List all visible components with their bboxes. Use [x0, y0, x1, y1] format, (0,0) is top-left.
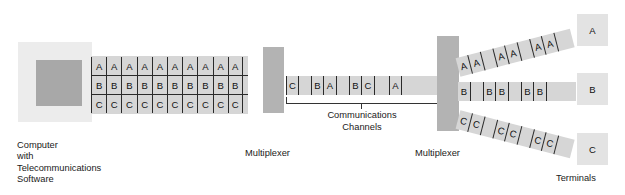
host-cell-b: B — [152, 76, 167, 94]
terminal-c: C — [577, 133, 608, 165]
host-cell-c: C — [121, 95, 136, 113]
communications-channel-gap — [375, 76, 389, 95]
host-data-cable: AAAAAAAAAA BBBBBBBBBB CCCCCCCCCC — [91, 56, 248, 114]
output-channel-b-cell: B — [496, 82, 509, 101]
output-channel-b-gap — [547, 82, 576, 101]
host-cell-b: B — [91, 76, 106, 94]
computer-icon-screen — [36, 60, 82, 106]
output-channel-b-gap — [471, 82, 483, 101]
output-channel-a: AAAAAA — [456, 29, 575, 77]
terminal-a: A — [577, 14, 608, 46]
output-channel-b-cell: B — [521, 82, 534, 101]
output-channel-c: CCCCCC — [456, 110, 575, 158]
communications-channel-bracket — [286, 97, 438, 104]
host-cell-a: A — [182, 57, 197, 75]
host-cell-b: B — [121, 76, 136, 94]
host-stream-row-b: BBBBBBBBBB — [91, 76, 248, 94]
host-cell-b: B — [167, 76, 182, 94]
host-cell-b: B — [137, 76, 152, 94]
host-cell-c: C — [152, 95, 167, 113]
computer-label: Computer with Telecommunications Softwar… — [17, 140, 157, 186]
output-channel-b-cell: B — [458, 82, 471, 101]
communications-channel-cell: A — [389, 76, 402, 95]
host-cell-a: A — [91, 57, 106, 75]
multiplexer-right-label: Multiplexer — [415, 148, 460, 158]
host-cell-b: B — [228, 76, 243, 94]
host-cell-c: C — [228, 95, 243, 113]
communications-channel-label: Communications Channels — [300, 110, 424, 133]
output-channel-c-gap — [554, 136, 574, 158]
host-cell-a: A — [197, 57, 212, 75]
communications-channel-gap — [402, 76, 438, 95]
host-cell-b: B — [182, 76, 197, 94]
host-cell-c: C — [182, 95, 197, 113]
host-cell-c: C — [213, 95, 228, 113]
communications-channel-gap — [337, 76, 349, 95]
host-cell-b: B — [213, 76, 228, 94]
host-cell-c: C — [91, 95, 106, 113]
communications-channel-cell: C — [362, 76, 375, 95]
multiplexer-right — [437, 36, 459, 131]
host-cell-a: A — [152, 57, 167, 75]
communications-channel-cell: C — [286, 76, 299, 95]
host-cell-b: B — [106, 76, 121, 94]
host-stream-row-a: AAAAAAAAAA — [91, 57, 248, 75]
terminal-b: B — [577, 73, 608, 105]
multiplexer-left — [263, 47, 284, 113]
host-cell-a: A — [106, 57, 121, 75]
output-channel-b-gap — [509, 82, 521, 101]
communications-channel-bracket-tick — [361, 104, 362, 109]
host-stream-row-c: CCCCCCCCCC — [91, 95, 248, 113]
communications-channel-cells: CBABCA — [286, 76, 438, 95]
terminals-label: Terminals — [556, 173, 596, 183]
output-channel-b-cell: B — [534, 82, 547, 101]
host-cell-a: A — [121, 57, 136, 75]
output-channel-a-gap — [554, 29, 574, 51]
host-cell-c: C — [167, 95, 182, 113]
communications-channel-cable: CBABCA — [286, 76, 438, 95]
host-cell-c: C — [106, 95, 121, 113]
host-cell-c: C — [197, 95, 212, 113]
multiplexer-left-label: Multiplexer — [245, 148, 290, 158]
communications-channel-cell: B — [349, 76, 362, 95]
output-channel-b: BBBBB — [458, 82, 576, 101]
communications-channel-cell: B — [311, 76, 324, 95]
host-cell-a: A — [137, 57, 152, 75]
host-cell-b: B — [197, 76, 212, 94]
host-cell-a: A — [167, 57, 182, 75]
multiplexing-diagram: Computer with Telecommunications Softwar… — [0, 0, 625, 195]
communications-channel-cell: A — [324, 76, 337, 95]
output-channel-b-cell: B — [483, 82, 496, 101]
host-cell-a: A — [228, 57, 243, 75]
host-cell-c: C — [137, 95, 152, 113]
communications-channel-gap — [299, 76, 311, 95]
host-cell-a: A — [213, 57, 228, 75]
